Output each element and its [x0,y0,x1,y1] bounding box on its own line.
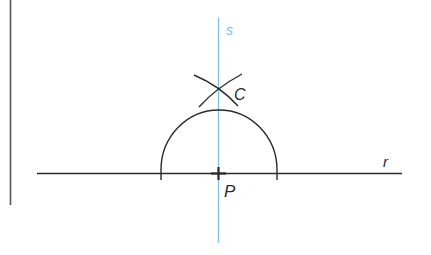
label-p: P [224,182,236,201]
label-r: r [383,153,389,170]
label-s: s [226,22,233,38]
point-p-mark [211,167,226,180]
label-c: C [234,86,246,103]
perpendicular-construction-diagram: s C r P [0,0,431,255]
